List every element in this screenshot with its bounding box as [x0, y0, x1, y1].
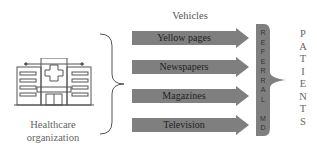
arrow-label: Newspapers	[132, 57, 236, 77]
spacer	[256, 104, 270, 114]
letter: L	[256, 95, 270, 105]
vehicle-arrow-television: Television	[132, 115, 249, 135]
letter: M	[256, 114, 270, 124]
arrow-label: Yellow pages	[132, 28, 236, 48]
letter: T	[296, 53, 310, 66]
vehicle-arrow-newspapers: Newspapers	[132, 57, 249, 77]
letter: S	[296, 116, 310, 129]
letter: E	[296, 78, 310, 91]
letter: N	[296, 91, 310, 104]
letter: E	[256, 38, 270, 48]
letter: P	[296, 28, 310, 41]
letter: A	[296, 41, 310, 54]
letter: R	[256, 76, 270, 86]
letter: D	[256, 123, 270, 133]
patients-label: P A T I E N T S	[296, 28, 310, 128]
vehicles-title: Vehicles	[150, 10, 230, 21]
letter: F	[256, 47, 270, 57]
letter: A	[256, 85, 270, 95]
letter: E	[256, 57, 270, 67]
arrow-label: Television	[132, 115, 236, 135]
letter: R	[256, 28, 270, 38]
vehicle-arrow-magazines: Magazines	[132, 86, 249, 106]
healthcare-organization-label: Healthcare organization	[8, 118, 98, 144]
label-line-1: Healthcare	[8, 118, 98, 131]
letter: I	[296, 66, 310, 79]
hospital-icon	[14, 58, 94, 110]
letter: T	[296, 103, 310, 116]
vehicle-arrow-yellow-pages: Yellow pages	[132, 28, 249, 48]
letter: R	[256, 66, 270, 76]
label-line-2: organization	[8, 131, 98, 144]
left-brace	[98, 32, 128, 136]
arrow-label: Magazines	[132, 86, 236, 106]
referral-md-text: R E F E R R A L M D	[256, 28, 270, 133]
